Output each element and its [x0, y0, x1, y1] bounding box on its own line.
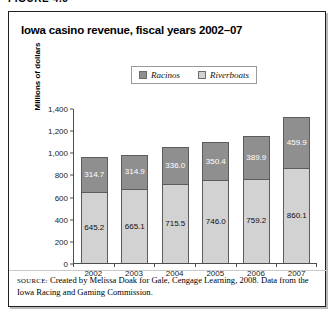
- bar-series-group: 314.7645.2314.9665.1336.0715.5350.4746.0…: [74, 109, 317, 263]
- bar-segment-riverboats[interactable]: 645.2: [81, 192, 108, 263]
- bar-segment-racinos[interactable]: 350.4: [202, 142, 229, 181]
- source-text: Created by Melissa Doak for Gale, Cengag…: [17, 275, 309, 297]
- y-tick-mark: [70, 153, 73, 154]
- bar-segment-racinos[interactable]: 336.0: [162, 147, 189, 184]
- bar-value-label: 314.9: [125, 168, 145, 176]
- x-tick-mark: [114, 264, 115, 267]
- bar-value-label: 350.4: [206, 158, 226, 166]
- y-tick-mark: [70, 131, 73, 132]
- figure-box: Iowa casino revenue, fiscal years 2002–0…: [8, 11, 326, 307]
- y-tick-mark: [70, 197, 73, 198]
- plot-area: 02004006008001,0001,2001,400 314.7645.23…: [73, 109, 317, 264]
- chart-legend: Racinos Riverboats: [131, 66, 257, 84]
- bar-value-label: 860.1: [287, 212, 307, 220]
- y-axis-title: Millions of dollars: [33, 22, 42, 132]
- bar-group[interactable]: 350.4746.0: [202, 142, 229, 263]
- bar-segment-racinos[interactable]: 314.9: [121, 155, 148, 190]
- bar-value-label: 336.0: [165, 162, 185, 170]
- bar-segment-riverboats[interactable]: 759.2: [243, 179, 270, 263]
- bar-segment-riverboats[interactable]: 715.5: [162, 184, 189, 263]
- x-tick-mark: [236, 264, 237, 267]
- bar-segment-racinos[interactable]: 459.9: [283, 117, 310, 168]
- bar-group[interactable]: 314.9665.1: [121, 155, 148, 263]
- bar-group[interactable]: 459.9860.1: [283, 117, 310, 263]
- bar-segment-riverboats[interactable]: 665.1: [121, 189, 148, 263]
- source-prefix: SOURCE:: [17, 277, 48, 284]
- figure-number-label: FIGURE 4.5: [8, 0, 68, 4]
- chart-title: Iowa casino revenue, fiscal years 2002–0…: [21, 24, 242, 36]
- bar-value-label: 665.1: [125, 223, 145, 231]
- x-tick-mark: [154, 264, 155, 267]
- bar-segment-riverboats[interactable]: 746.0: [202, 180, 229, 263]
- figure-container: FIGURE 4.5 Iowa casino revenue, fiscal y…: [0, 0, 336, 318]
- bar-segment-racinos[interactable]: 389.9: [243, 136, 270, 179]
- legend-item-racinos: Racinos: [139, 70, 180, 80]
- bar-value-label: 759.2: [246, 217, 266, 225]
- y-tick-mark: [70, 241, 73, 242]
- bar-group[interactable]: 314.7645.2: [81, 157, 108, 263]
- bar-value-label: 459.9: [287, 139, 307, 147]
- y-tick-mark: [70, 109, 73, 110]
- bar-value-label: 715.5: [165, 220, 185, 228]
- source-divider: [9, 270, 327, 271]
- bar-group[interactable]: 389.9759.2: [243, 136, 270, 263]
- legend-item-riverboats: Riverboats: [198, 70, 249, 80]
- bar-segment-riverboats[interactable]: 860.1: [283, 168, 310, 263]
- y-tick-mark: [70, 219, 73, 220]
- bar-value-label: 746.0: [206, 218, 226, 226]
- source-note: SOURCE: Created by Melissa Doak for Gale…: [17, 275, 319, 299]
- x-tick-mark: [195, 264, 196, 267]
- legend-label-racinos: Racinos: [151, 70, 180, 80]
- x-tick-mark: [73, 264, 74, 267]
- x-tick-mark: [316, 264, 317, 267]
- legend-label-riverboats: Riverboats: [210, 70, 249, 80]
- y-tick-mark: [70, 175, 73, 176]
- legend-swatch-racinos: [139, 71, 147, 79]
- x-tick-mark: [276, 264, 277, 267]
- bar-segment-racinos[interactable]: 314.7: [81, 157, 108, 192]
- legend-swatch-riverboats: [198, 71, 206, 79]
- bar-value-label: 314.7: [84, 171, 104, 179]
- bar-value-label: 645.2: [84, 224, 104, 232]
- bar-group[interactable]: 336.0715.5: [162, 147, 189, 263]
- bar-value-label: 389.9: [246, 154, 266, 162]
